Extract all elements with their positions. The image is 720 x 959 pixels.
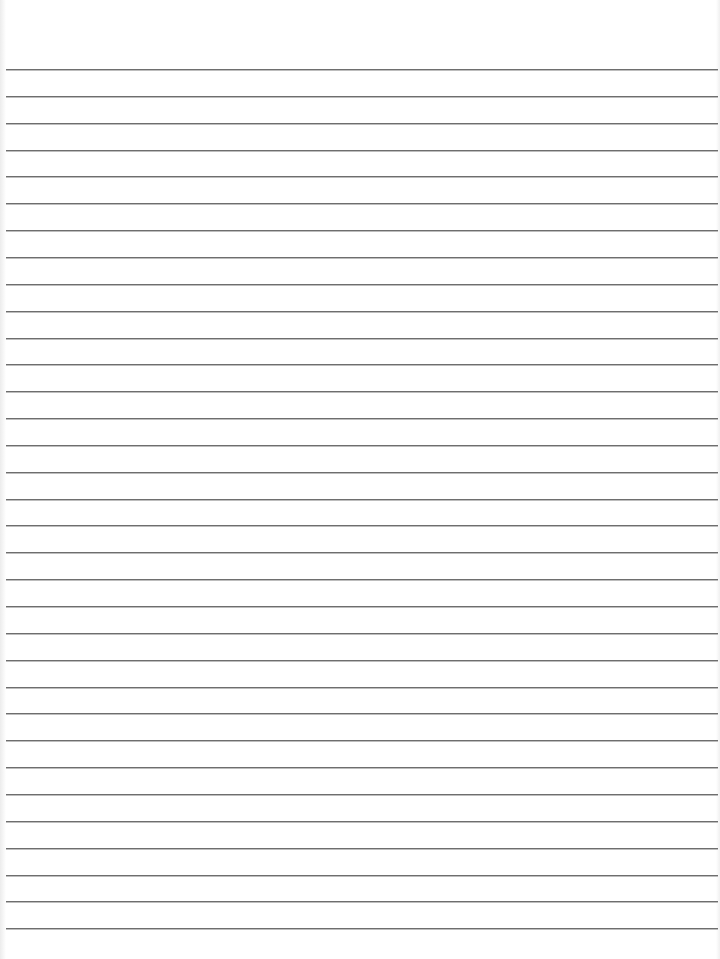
ruled-line <box>6 606 718 607</box>
ruled-line <box>6 150 718 151</box>
ruled-line <box>6 525 718 526</box>
ruled-line <box>6 284 718 285</box>
ruled-line <box>6 794 718 795</box>
ruled-line <box>6 472 718 473</box>
left-edge-shadow <box>0 0 6 959</box>
ruled-line <box>6 96 718 97</box>
ruled-line <box>6 123 718 124</box>
ruled-line <box>6 928 718 929</box>
ruled-line <box>6 230 718 231</box>
ruled-line <box>6 579 718 580</box>
ruled-line <box>6 660 718 661</box>
ruled-line <box>6 499 718 500</box>
right-edge-shadow <box>716 0 720 959</box>
ruled-line <box>6 740 718 741</box>
ruled-line <box>6 364 718 365</box>
ruled-line <box>6 418 718 419</box>
ruled-line <box>6 848 718 849</box>
ruled-line <box>6 338 718 339</box>
ruled-line <box>6 633 718 634</box>
ruled-line <box>6 875 718 876</box>
ruled-line <box>6 257 718 258</box>
ruled-line <box>6 391 718 392</box>
ruled-line <box>6 713 718 714</box>
ruled-line <box>6 687 718 688</box>
ruled-line <box>6 821 718 822</box>
ruled-line <box>6 311 718 312</box>
ruled-line <box>6 445 718 446</box>
ruled-line <box>6 901 718 902</box>
ruled-line <box>6 203 718 204</box>
ruled-line <box>6 767 718 768</box>
ruled-line <box>6 176 718 177</box>
ruled-line <box>6 69 718 70</box>
ruled-line <box>6 552 718 553</box>
